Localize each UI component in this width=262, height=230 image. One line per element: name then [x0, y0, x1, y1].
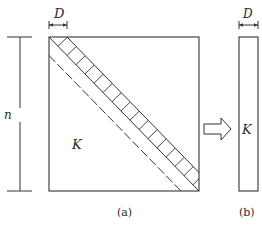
- matrix-label-k-b: K: [241, 122, 253, 137]
- panel-b: D K (b): [239, 7, 258, 219]
- caption-b: (b): [239, 206, 255, 219]
- caption-a: (a): [117, 206, 132, 219]
- banded-matrix-diagram: D n K (a) D K (b): [0, 0, 262, 230]
- width-dimension: [49, 21, 67, 29]
- width-label-d-b: D: [242, 7, 253, 21]
- width-label-d: D: [53, 6, 65, 21]
- matrix-label-k-a: K: [71, 137, 83, 152]
- lower-band-dashed-line: [49, 56, 181, 192]
- panel-a: D n K (a): [4, 6, 199, 219]
- hatched-band: [49, 37, 199, 191]
- width-dimension-b: [239, 21, 258, 29]
- band-storage-rect: [239, 37, 258, 191]
- transform-arrow-icon: [204, 118, 231, 140]
- height-label-n: n: [4, 108, 12, 122]
